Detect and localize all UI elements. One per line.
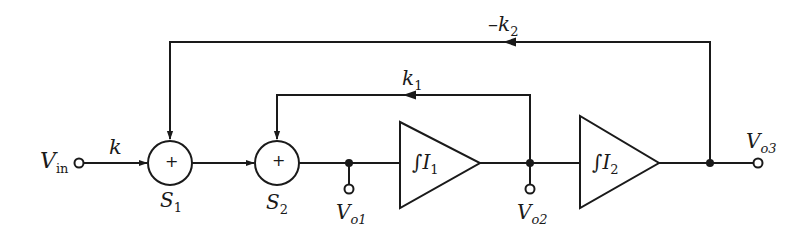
- k1-label-sub: 1: [414, 78, 422, 93]
- integrator-i2-label: ∫I2: [592, 152, 619, 172]
- vo3-label: Vo3: [746, 131, 777, 151]
- vo1-label-main: V: [336, 200, 350, 224]
- diagram-wiring: [0, 0, 812, 236]
- vo1-terminal: [345, 185, 354, 194]
- vo3-terminal: [754, 159, 763, 168]
- vo2-label-sub: o2: [531, 212, 547, 227]
- s1-label-sub: 1: [174, 200, 182, 215]
- junction-vo1: [345, 159, 353, 167]
- integrator-i1-label: ∫I1: [412, 152, 439, 172]
- input-label-main: V: [40, 148, 56, 173]
- vo3-label-sub: o3: [760, 141, 776, 156]
- k2-prefix: –: [488, 12, 498, 36]
- s2-label: S2: [266, 192, 288, 212]
- k1-label-main: k: [402, 66, 414, 90]
- vo1-label: Vo1: [336, 202, 367, 222]
- vo2-label-main: V: [517, 200, 531, 224]
- s2-label-main: S: [266, 190, 280, 214]
- block-diagram: Vin k + + S1 S2 ∫I1 ∫I2 Vo1 Vo2 Vo3 k1 –…: [0, 0, 812, 236]
- i1-label-sub: 1: [430, 162, 438, 177]
- input-label: Vin: [40, 150, 68, 172]
- junction-vo3: [706, 159, 714, 167]
- feedback-k1-label: k1: [402, 68, 422, 88]
- integral-symbol-2: ∫: [592, 150, 602, 174]
- k2-label-main: k: [498, 12, 510, 36]
- s1-label: S1: [160, 190, 182, 210]
- integral-symbol-1: ∫: [412, 150, 422, 174]
- junction-vo2: [526, 159, 534, 167]
- input-gain-label: k: [109, 137, 122, 158]
- s2-plus-sign: +: [272, 153, 285, 169]
- k2-label-sub: 2: [510, 24, 518, 39]
- input-terminal: [75, 159, 84, 168]
- vo2-terminal: [526, 185, 535, 194]
- s1-label-main: S: [160, 188, 174, 212]
- input-label-sub: in: [56, 161, 69, 176]
- s1-plus-sign: +: [165, 154, 178, 170]
- s2-label-sub: 2: [280, 202, 288, 217]
- vo1-label-sub: o1: [350, 212, 366, 227]
- i2-label-sub: 2: [610, 162, 618, 177]
- input-gain-text: k: [109, 135, 122, 159]
- feedback-k2-label: –k2: [488, 14, 518, 34]
- vo3-label-main: V: [746, 129, 760, 153]
- vo2-label: Vo2: [517, 202, 548, 222]
